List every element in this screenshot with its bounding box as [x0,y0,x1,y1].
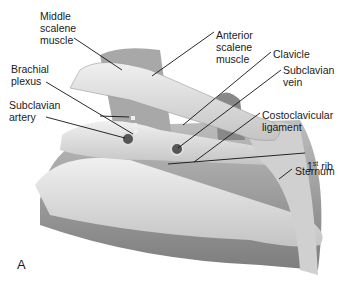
subclavian-vein-shape [171,143,183,155]
label-anterior-scalene-muscle: Anterior scalene muscle [216,29,253,65]
subclavian-artery-shape [122,133,134,145]
label-clavicle: Clavicle [273,48,310,60]
label-brachial-plexus: Brachial plexus [11,63,49,87]
label-first-rib: 1st rib [307,148,333,172]
anatomy-figure: Middle scalene muscle Anterior scalene m… [0,0,345,283]
label-subclavian-artery: Subclavian artery [9,99,60,123]
label-costoclavicular-ligament: Costoclavicular ligament [262,109,333,133]
label-middle-scalene-muscle: Middle scalene muscle [40,10,76,46]
panel-letter: A [17,257,26,272]
label-subclavian-vein: Subclavian vein [283,64,334,88]
